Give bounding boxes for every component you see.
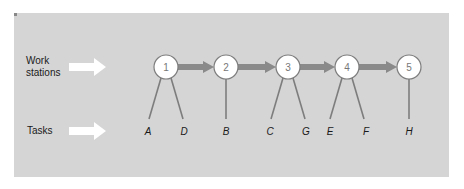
station-label: 2 bbox=[223, 62, 229, 73]
work-stations-pointer-arrow-icon bbox=[69, 58, 106, 76]
station-node-4: 4 bbox=[335, 55, 359, 79]
station-label: 1 bbox=[163, 62, 169, 73]
flow-arrow-icon bbox=[178, 61, 214, 73]
task-label-e: E bbox=[327, 126, 334, 137]
task-label-f: F bbox=[363, 126, 370, 137]
tasks-pointer-arrow-icon bbox=[69, 122, 106, 140]
station-label: 3 bbox=[285, 62, 291, 73]
task-label-a: A bbox=[144, 126, 152, 137]
connector-1-D bbox=[171, 78, 183, 119]
task-connectors bbox=[149, 78, 409, 119]
flow-arrow-icon bbox=[359, 61, 397, 73]
connector-3-G bbox=[293, 78, 305, 119]
task-labels: A D B C G E F H bbox=[144, 126, 414, 137]
station-node-5: 5 bbox=[397, 55, 421, 79]
station-node-2: 2 bbox=[214, 55, 238, 79]
station-label: 5 bbox=[406, 62, 412, 73]
assembly-line-diagram: 1 2 3 4 5 A D B C G E F H bbox=[0, 0, 464, 189]
flow-arrow-icon bbox=[238, 61, 276, 73]
station-node-3: 3 bbox=[276, 55, 300, 79]
connector-4-F bbox=[352, 78, 364, 119]
task-label-h: H bbox=[405, 126, 413, 137]
station-node-1: 1 bbox=[154, 55, 178, 79]
connector-4-E bbox=[330, 78, 342, 119]
task-label-c: C bbox=[266, 126, 274, 137]
flow-arrow-icon bbox=[300, 61, 335, 73]
station-label: 4 bbox=[344, 62, 350, 73]
connector-3-C bbox=[271, 78, 283, 119]
connector-1-A bbox=[149, 78, 161, 119]
task-label-g: G bbox=[302, 126, 310, 137]
task-label-d: D bbox=[180, 126, 187, 137]
task-label-b: B bbox=[223, 126, 230, 137]
